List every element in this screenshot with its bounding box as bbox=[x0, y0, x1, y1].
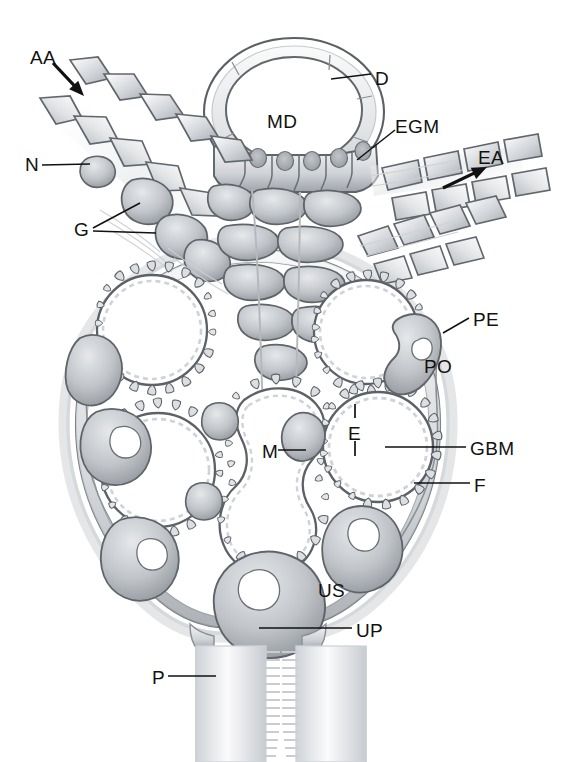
label-d: D bbox=[375, 69, 389, 88]
label-egm: EGM bbox=[395, 117, 439, 136]
label-pe: PE bbox=[473, 310, 499, 329]
label-f: F bbox=[474, 476, 486, 495]
label-md: MD bbox=[267, 112, 297, 131]
label-g: G bbox=[74, 220, 89, 239]
nerve-terminal bbox=[80, 156, 115, 187]
label-e: E bbox=[348, 424, 361, 443]
label-p: P bbox=[152, 668, 165, 687]
label-ea: EA bbox=[478, 148, 504, 167]
label-aa: AA bbox=[30, 48, 56, 67]
label-m: M bbox=[262, 442, 278, 461]
label-po: PO bbox=[424, 357, 452, 376]
leader-n bbox=[42, 164, 90, 165]
label-n: N bbox=[25, 155, 39, 174]
label-us: US bbox=[318, 581, 345, 600]
label-up: UP bbox=[356, 621, 383, 640]
label-gbm: GBM bbox=[470, 439, 514, 458]
figure-canvas: AADMDEGMNEAGPEPOEGBMMFUSUPP bbox=[0, 0, 562, 762]
